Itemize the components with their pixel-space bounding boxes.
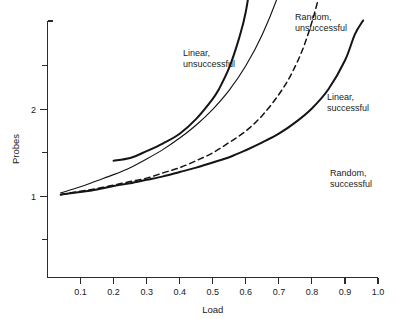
x-tick-label-0.5: 0.5 <box>207 287 220 297</box>
y-axis-tick-labels: 1 2 <box>31 105 36 202</box>
x-tick-label-0.4: 0.4 <box>173 287 186 297</box>
y-tick-label-1: 1 <box>31 192 36 202</box>
x-tick-label-1.0: 1.0 <box>372 287 385 297</box>
x-axis-title: Load <box>202 304 223 315</box>
label-random-successful-line2: successful <box>330 179 372 189</box>
x-tick-label-0.7: 0.7 <box>273 287 286 297</box>
curve-linear-unsuccessful <box>114 0 261 161</box>
probes-vs-load-chart: 1 2 0.1 0.2 0.3 0.4 0.5 0.6 0.7 0.8 0.9 … <box>0 0 397 319</box>
label-linear-successful-line1: Linear, <box>327 92 354 102</box>
label-random-successful-line1: Random, <box>330 168 367 178</box>
x-tick-label-0.6: 0.6 <box>240 287 253 297</box>
curve-random-successful <box>61 20 363 194</box>
y-axis-title: Probes <box>10 134 21 164</box>
x-tick-label-0.2: 0.2 <box>107 287 120 297</box>
x-axis-tick-labels: 0.1 0.2 0.3 0.4 0.5 0.6 0.7 0.8 0.9 1.0 <box>74 287 384 297</box>
x-tick-label-0.8: 0.8 <box>306 287 319 297</box>
y-axis-ticks <box>40 66 48 240</box>
label-random-unsuccessful-line2: unsuccessful <box>295 23 347 33</box>
chart-canvas: 1 2 0.1 0.2 0.3 0.4 0.5 0.6 0.7 0.8 0.9 … <box>0 0 397 319</box>
label-linear-successful-line2: successful <box>327 103 369 113</box>
x-tick-label-0.1: 0.1 <box>74 287 87 297</box>
x-tick-label-0.3: 0.3 <box>140 287 153 297</box>
x-axis-ticks <box>81 278 378 285</box>
label-linear-unsuccessful-line2: unsuccessful <box>183 59 235 69</box>
label-random-unsuccessful-line1: Random, <box>295 12 332 22</box>
y-tick-label-2: 2 <box>31 105 36 115</box>
x-tick-label-0.9: 0.9 <box>339 287 352 297</box>
label-linear-unsuccessful-line1: Linear, <box>183 48 210 58</box>
